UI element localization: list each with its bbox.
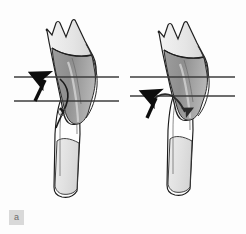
right-lower-tooth-root-shade: [168, 137, 192, 193]
figure-container: a: [0, 0, 246, 234]
left-lower-tooth-root-shade: [55, 139, 79, 195]
dental-diagram: [0, 0, 246, 234]
figure-background: [0, 0, 246, 234]
panel-label: a: [9, 210, 24, 225]
